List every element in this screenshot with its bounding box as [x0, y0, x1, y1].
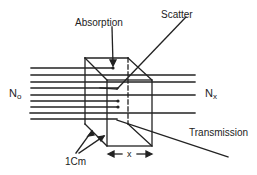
transmission-ray [117, 120, 228, 157]
scatter-label: Scatter [161, 9, 193, 20]
cube-size-label: 1Cm [65, 156, 86, 167]
attenuation-diagram: Absorption Scatter Transmission No Nx 1C… [0, 0, 257, 175]
incident-label: No [9, 87, 22, 101]
exiting-label: Nx [205, 87, 217, 101]
scatter-ray [117, 17, 186, 89]
absorption-arrow [110, 27, 116, 66]
path-length-label: x [127, 149, 132, 159]
incident-beam-lines [30, 68, 195, 119]
transmission-label: Transmission [189, 127, 248, 138]
absorption-label: Absorption [75, 17, 123, 28]
cube-size-arrows [76, 131, 104, 153]
